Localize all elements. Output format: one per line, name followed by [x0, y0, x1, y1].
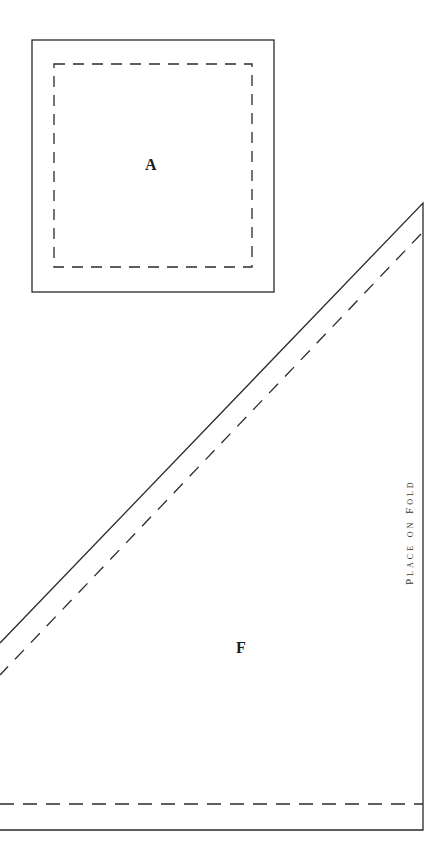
- piece-a-label: A: [145, 156, 157, 174]
- place-on-fold-label: Place on Fold: [403, 479, 415, 585]
- piece-f-cut-line: [0, 203, 423, 830]
- piece-f-label: F: [236, 639, 246, 657]
- pattern-drawing: [0, 0, 446, 859]
- piece-f-seam-hypotenuse: [0, 234, 421, 675]
